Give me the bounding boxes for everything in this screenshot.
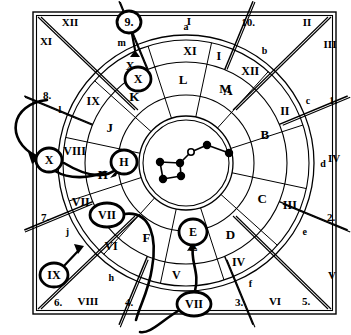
callout-label: 9. <box>125 15 134 29</box>
corner-label-1: 1. <box>329 94 338 106</box>
corner-label-2: 2. <box>327 211 336 223</box>
roman-i: I <box>216 49 221 63</box>
roman-vii: VII <box>72 195 90 209</box>
corner-label-10: 10. <box>241 16 255 28</box>
callout-cIX[interactable]: IX <box>40 263 68 287</box>
letter-b: B <box>261 127 270 142</box>
callout-label: X <box>134 72 143 86</box>
corner-label-7: 7. <box>41 211 50 223</box>
lower-h: h <box>109 272 115 283</box>
callout-label: VII <box>185 297 203 311</box>
roman-ix: IX <box>86 94 100 108</box>
corner-label-iv: IV <box>328 152 340 164</box>
constellation-star <box>177 160 184 167</box>
roman-viii: VIII <box>63 144 86 158</box>
roman-iv: IV <box>232 255 246 269</box>
corner-label-6: 6. <box>54 296 63 308</box>
roman-iii: III <box>283 198 297 212</box>
roman-xi: XI <box>183 44 197 58</box>
callout-cE[interactable]: E <box>179 219 207 245</box>
roman-ii: II <box>280 104 290 118</box>
letter-c: C <box>257 191 266 206</box>
letter-f: F <box>143 230 151 245</box>
corner-label-xi: XI <box>40 35 52 47</box>
roman-vi: VI <box>104 239 118 253</box>
lower-m: m <box>118 37 127 48</box>
callout-cX2[interactable]: X <box>36 148 62 172</box>
constellation-star <box>188 149 194 155</box>
letter-l: L <box>179 72 188 87</box>
corner-label-ii: II <box>303 16 312 28</box>
corner-label-3: 3. <box>235 296 244 308</box>
lower-d: d <box>320 158 326 169</box>
constellation-star <box>178 173 185 180</box>
callout-cVII1[interactable]: VII <box>90 203 124 227</box>
callout-cVII2[interactable]: VII <box>177 292 211 316</box>
lower-l: l <box>59 104 62 115</box>
letter-m: M <box>219 81 231 96</box>
callout-label: IX <box>47 268 61 282</box>
corner-label-4: 4. <box>125 296 134 308</box>
constellation-star <box>157 159 164 166</box>
letter-d: D <box>226 227 235 242</box>
roman-v: V <box>172 268 181 282</box>
lower-j: j <box>65 226 69 237</box>
constellation-star <box>160 176 167 183</box>
corner-label-vi: VI <box>269 295 281 307</box>
lower-e: e <box>302 226 307 237</box>
lower-b: b <box>262 45 268 56</box>
circular-diagram: ABCDEFGHJKLM IIIIIIIVVVIVIIVIIIIXXXIXII … <box>0 0 351 335</box>
lower-c: c <box>306 95 311 106</box>
letter-j: J <box>107 120 114 135</box>
corner-label-iii: III <box>324 38 337 50</box>
callout-label: VII <box>98 208 116 222</box>
roman-xii: XII <box>241 64 259 78</box>
corner-label-i: I <box>187 15 191 27</box>
callout-label: E <box>189 225 197 239</box>
corner-label-5: 5. <box>302 295 311 307</box>
corner-label-v: V <box>328 269 336 281</box>
constellation-star <box>204 142 211 149</box>
figure-root: ABCDEFGHJKLM IIIIIIIVVVIVIIVIIIIXXXIXII … <box>0 0 351 335</box>
constellation-star <box>226 150 233 157</box>
callout-cH[interactable]: H <box>111 150 137 174</box>
callout-cX1[interactable]: X <box>125 67 151 91</box>
callout-label: H <box>119 155 129 169</box>
corner-label-viii: VIII <box>78 295 99 307</box>
callout-c9[interactable]: 9. <box>117 11 141 33</box>
callout-label: X <box>45 153 54 167</box>
corner-label-xii: XII <box>62 16 79 28</box>
